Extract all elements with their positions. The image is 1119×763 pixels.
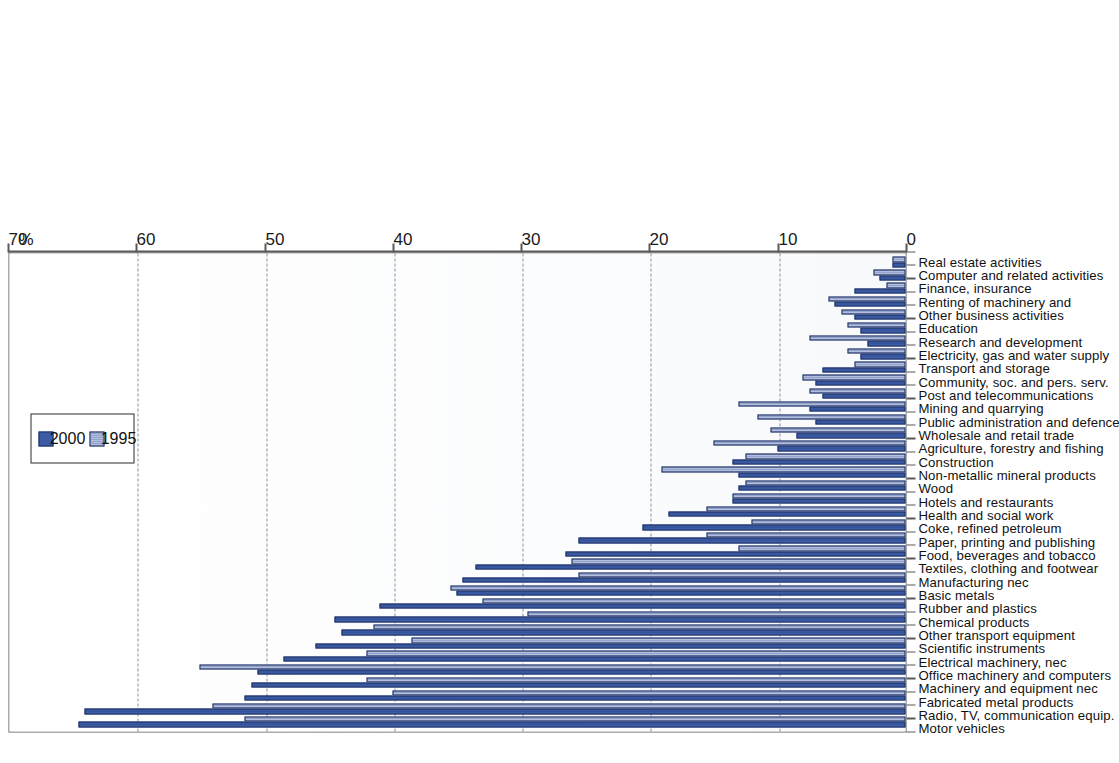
bar-1995 [738, 545, 905, 550]
bar-2000 [334, 616, 905, 621]
bar-2000 [283, 656, 905, 661]
bar-2000 [815, 380, 905, 385]
bar-group [9, 570, 905, 583]
category-tick [906, 584, 915, 585]
axis-unit-label: % [18, 229, 33, 249]
bar-group [9, 531, 905, 544]
bar-1995 [373, 624, 905, 629]
value-tick-label-60: 60 [136, 229, 155, 249]
bar-1995 [745, 480, 905, 485]
legend: 1995 2000 [30, 413, 134, 463]
bar-1995 [873, 269, 905, 274]
bar-1995 [571, 558, 905, 563]
bar-1995 [841, 309, 905, 314]
bar-group [9, 505, 905, 518]
value-axis-line [8, 250, 906, 252]
legend-label-2000: 2000 [49, 430, 85, 446]
bar-group [9, 662, 905, 675]
value-tick-label-30: 30 [521, 229, 540, 249]
category-label: Fabricated metal products [918, 694, 1073, 709]
category-tick [906, 437, 915, 438]
bar-2000 [738, 472, 905, 477]
bar-1995 [802, 374, 905, 379]
bar-1995 [450, 585, 905, 590]
bar-2000 [84, 708, 905, 713]
category-label: Agriculture, forestry and fishing [918, 440, 1103, 455]
value-tick-label-20: 20 [649, 229, 668, 249]
category-tick [906, 451, 915, 452]
bar-2000 [341, 629, 905, 634]
bar-group [9, 255, 905, 268]
bar-1995 [706, 506, 905, 511]
category-tick [906, 637, 915, 638]
bar-2000 [822, 367, 905, 372]
category-tick [906, 491, 915, 492]
bar-2000 [257, 669, 905, 674]
category-tick [906, 331, 915, 332]
bar-group [9, 360, 905, 373]
bar-2000 [732, 459, 905, 464]
category-label: Hotels and restaurants [918, 494, 1053, 509]
bar-2000 [822, 393, 905, 398]
bar-2000 [867, 340, 905, 345]
bar-1995 [527, 611, 905, 616]
bar-2000 [475, 564, 905, 569]
bar-1995 [809, 388, 905, 393]
bar-1995 [392, 690, 905, 695]
bar-2000 [815, 419, 905, 424]
bar-2000 [892, 262, 905, 267]
category-tick [906, 344, 915, 345]
bar-group [9, 478, 905, 491]
bar-1995 [482, 598, 905, 603]
category-tick [906, 277, 915, 278]
bar-2000 [251, 682, 905, 687]
bar-group [9, 413, 905, 426]
bar-2000 [668, 511, 905, 516]
bar-2000 [732, 498, 905, 503]
category-tick [906, 664, 915, 665]
bar-2000 [578, 537, 905, 542]
category-label: Construction [918, 454, 993, 469]
legend-label-1995: 1995 [100, 430, 136, 446]
bar-group [9, 583, 905, 596]
category-tick [906, 717, 915, 718]
bar-group [9, 373, 905, 386]
bar-1995 [366, 677, 905, 682]
category-tick [906, 531, 915, 532]
bar-group [9, 597, 905, 610]
bar-group [9, 649, 905, 662]
category-tick [906, 291, 915, 292]
bar-group [9, 386, 905, 399]
bar-1995 [854, 361, 905, 366]
value-tick-label-0: 0 [906, 229, 915, 249]
bar-group [9, 308, 905, 321]
category-tick [906, 597, 915, 598]
category-tick [906, 424, 915, 425]
category-label: Rubber and plastics [918, 600, 1036, 615]
category-label: Wood [918, 480, 953, 495]
bar-2000 [315, 643, 905, 648]
plot-frame [8, 252, 906, 732]
bar-2000 [796, 432, 905, 437]
bar-group [9, 452, 905, 465]
category-tick [906, 411, 915, 412]
bar-1995 [244, 716, 905, 721]
bar-2000 [642, 524, 905, 529]
bar-group [9, 439, 905, 452]
bar-1995 [732, 493, 905, 498]
bar-2000 [379, 603, 905, 608]
category-tick [906, 651, 915, 652]
value-tick-label-40: 40 [393, 229, 412, 249]
category-tick [906, 544, 915, 545]
bar-2000 [809, 406, 905, 411]
category-tick [906, 464, 915, 465]
bar-group [9, 268, 905, 281]
category-label: Research and development [918, 334, 1082, 349]
bar-group [9, 702, 905, 715]
bar-group [9, 557, 905, 570]
category-tick [906, 731, 915, 732]
category-label: Community, soc. and pers. serv. [918, 374, 1108, 389]
bar-2000 [834, 301, 905, 306]
category-tick [906, 677, 915, 678]
bar-1995 [757, 414, 905, 419]
